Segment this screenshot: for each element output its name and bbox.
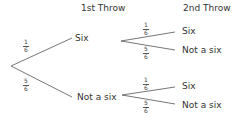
numerator: 1 bbox=[142, 22, 150, 28]
node-six-six: Six bbox=[182, 26, 196, 36]
header-first-throw: 1st Throw bbox=[81, 3, 125, 13]
numerator: 1 bbox=[142, 77, 150, 83]
numerator: 5 bbox=[142, 100, 150, 106]
branch-root-not-six bbox=[11, 66, 72, 97]
prob-notsix-not-six: 5 6 bbox=[142, 100, 150, 114]
denominator: 6 bbox=[22, 47, 30, 53]
numerator: 5 bbox=[142, 46, 150, 52]
prob-first-not-six: 5 6 bbox=[22, 78, 30, 92]
header-second-throw: 2nd Throw bbox=[183, 3, 231, 13]
node-six-not-six: Not a six bbox=[182, 45, 222, 55]
branch-root-six bbox=[11, 38, 72, 66]
denominator: 6 bbox=[142, 54, 150, 60]
node-first-not-six: Not a six bbox=[77, 92, 117, 102]
node-notsix-six: Six bbox=[182, 81, 196, 91]
prob-notsix-six: 1 6 bbox=[142, 77, 150, 91]
node-first-six: Six bbox=[75, 33, 89, 43]
numerator: 5 bbox=[22, 78, 30, 84]
denominator: 6 bbox=[142, 108, 150, 114]
node-notsix-not-six: Not a six bbox=[182, 100, 222, 110]
prob-six-not-six: 5 6 bbox=[142, 46, 150, 60]
numerator: 1 bbox=[22, 39, 30, 45]
prob-first-six: 1 6 bbox=[22, 39, 30, 53]
denominator: 6 bbox=[142, 30, 150, 36]
denominator: 6 bbox=[22, 86, 30, 92]
denominator: 6 bbox=[142, 85, 150, 91]
prob-six-six: 1 6 bbox=[142, 22, 150, 36]
